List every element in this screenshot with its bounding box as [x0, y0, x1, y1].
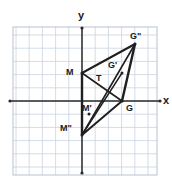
vertex-label-m-prime: M': [82, 104, 92, 113]
figure-canvas: y x M G T G' G" M' M": [0, 0, 172, 187]
vertex-label-g-prime: G': [108, 61, 117, 70]
axis-lines: [8, 26, 161, 174]
vertex-label-g: G: [126, 104, 133, 113]
y-axis-label: y: [78, 10, 84, 21]
vertex-label-m-double-prime: M": [60, 124, 72, 133]
coordinate-plane-figure: [0, 0, 172, 187]
vertex-label-g-double-prime: G": [130, 32, 141, 41]
vertex-label-t: T: [96, 74, 102, 83]
x-axis-label: x: [163, 95, 169, 106]
vertex-label-m: M: [66, 68, 74, 77]
